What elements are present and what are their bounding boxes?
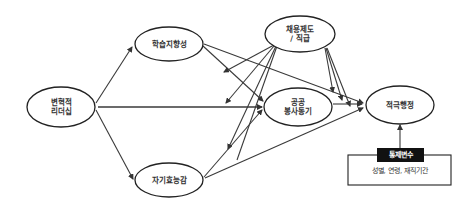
- label-text: 적극행정: [386, 101, 414, 110]
- edge-efficacy-psm: [204, 110, 262, 177]
- edge-leadership-efficacy: [96, 110, 133, 179]
- edge-leadership-learning: [96, 47, 132, 103]
- label-line-1: 변혁적: [51, 98, 72, 107]
- control-variables-items: 성별, 연령, 재직기간: [345, 165, 455, 177]
- label-public-service-motivation: 공공 봉사동기: [284, 98, 312, 116]
- label-line-2: 리더십: [51, 107, 72, 116]
- label-learning-orientation: 학습지향성: [152, 40, 187, 49]
- label-text: 자기효능감: [152, 176, 187, 185]
- edge-employment-proactive1: [325, 48, 333, 92]
- label-employment-system: 채용제도 / 직급: [286, 25, 314, 43]
- label-proactive-behavior: 적극행정: [386, 101, 414, 110]
- edge-employment-mod1: [224, 45, 274, 72]
- label-line-1: 채용제도: [286, 25, 314, 34]
- label-line-1: 공공: [284, 98, 312, 107]
- label-line-2: 봉사동기: [284, 107, 312, 116]
- label-transformational-leadership: 변혁적 리더십: [51, 98, 72, 116]
- control-variables-title: 통제변수: [377, 148, 424, 162]
- label-self-efficacy: 자기효능감: [152, 176, 187, 185]
- label-text: 학습지향성: [152, 40, 187, 49]
- label-line-2: / 직급: [286, 34, 314, 43]
